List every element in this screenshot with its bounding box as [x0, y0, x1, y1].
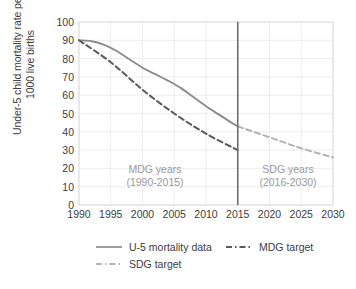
legend-item-u5-mortality-data: U-5 mortality data — [96, 241, 226, 253]
legend-label-u5-mortality-data: U-5 mortality data — [129, 241, 212, 253]
annotation-mdg-years: MDG years (1990-2015) — [107, 163, 203, 189]
annotation-sdg-line1: SDG years — [240, 163, 336, 176]
legend-label-mdg-target: MDG target — [259, 241, 313, 253]
chart-figure: Under-5 child mortality rate per 1000 li… — [0, 0, 356, 289]
legend-item-mdg-target: MDG target — [226, 241, 313, 253]
legend-item-sdg-target: SDG target — [96, 258, 226, 270]
annotation-mdg-line1: MDG years — [107, 163, 203, 176]
legend-swatch-dashed-dark-icon — [226, 242, 252, 252]
legend-row-1: U-5 mortality data MDG target — [96, 238, 348, 255]
annotation-mdg-line2: (1990-2015) — [107, 176, 203, 189]
x-axis-tick-2030: 2030 — [312, 208, 354, 220]
chart-legend: U-5 mortality data MDG target SDG target — [96, 238, 348, 272]
annotation-sdg-line2: (2016-2030) — [240, 176, 336, 189]
legend-label-sdg-target: SDG target — [129, 258, 182, 270]
legend-swatch-dashed-light-icon — [96, 259, 122, 269]
annotation-sdg-years: SDG years (2016-2030) — [240, 163, 336, 189]
legend-swatch-solid-icon — [96, 242, 122, 252]
legend-row-2: SDG target — [96, 255, 348, 272]
series-line-sdg-target — [238, 126, 333, 157]
